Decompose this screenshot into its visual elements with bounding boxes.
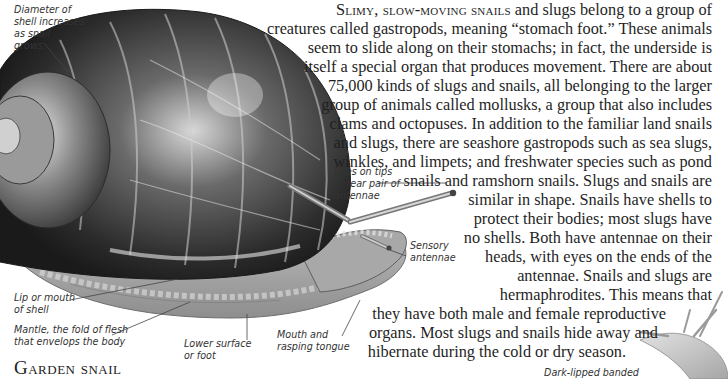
intro-line: 75,000 kinds of slugs and snails, all be… [328, 76, 712, 95]
intro-line: winkles, and limpets; and freshwater spe… [334, 152, 712, 171]
intro-lead-caps: Slimy, slow-moving snails [336, 0, 511, 19]
intro-line: seem to slide along on their stomachs; i… [308, 38, 712, 57]
intro-line: snails and ramshorn snails. Slugs and sn… [404, 171, 712, 190]
label-mouth-tongue: Mouth and rasping tongue [277, 329, 350, 353]
intro-line: organs. Most slugs and snails hide away … [369, 323, 658, 342]
intro-line: similar in shape. Snails have shells to [468, 190, 712, 209]
label-mantle: Mantle, the fold of flesh that envelops … [14, 324, 128, 348]
intro-line: they have both male and female reproduct… [372, 304, 666, 323]
intro-line: Slimy, slow-moving snails and slugs belo… [336, 0, 712, 19]
section-heading-garden-snail: Garden snail [14, 357, 122, 379]
intro-line: protect their bodies; most slugs have [474, 209, 712, 228]
intro-line: clams and octopuses. In addition to the … [329, 114, 712, 133]
label-shell-diameter: Diameter of shell increases as snail gro… [14, 4, 85, 52]
intro-line: no shells. Both have antennae on their [464, 228, 712, 247]
label-lower-surface-foot: Lower surface or foot [184, 338, 251, 362]
label-eyes-on-antennae: Eyes on tips of rear pair of antennae [334, 166, 400, 202]
intro-line: creatures called gastropods, meaning “st… [267, 19, 712, 38]
label-lip-of-shell: Lip or mouth of shell [14, 292, 75, 316]
intro-line: and slugs, there are seashore gastropods… [334, 133, 712, 152]
intro-line: antennae. Snails and slugs are [517, 266, 712, 285]
intro-line: group of animals called mollusks, a grou… [321, 95, 712, 114]
intro-line: hibernate during the cold or dry season. [368, 342, 626, 361]
intro-line: itself a special organ that produces mov… [304, 57, 712, 76]
label-dark-lipped-banded: Dark-lipped banded [544, 367, 639, 379]
label-sensory-antennae: Sensory antennae [410, 240, 456, 264]
intro-line: heads, with eyes on the ends of the [485, 247, 712, 266]
intro-line: hermaphrodites. This means that [500, 285, 712, 304]
